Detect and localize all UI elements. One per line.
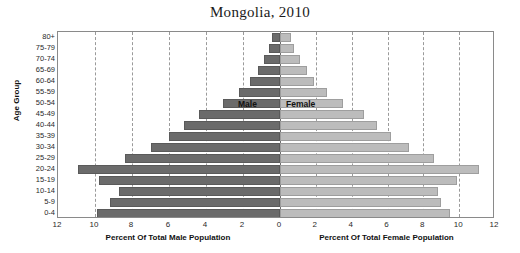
y-axis-tick-labels: 80+75-7970-7465-6960-6455-5950-5445-4940…	[0, 31, 55, 218]
pyramid-row	[58, 176, 493, 185]
y-tick-35-39: 35-39	[3, 131, 55, 140]
pyramid-row	[58, 88, 493, 97]
bar-male	[78, 165, 280, 174]
bar-female	[280, 44, 294, 53]
bar-male	[97, 209, 280, 217]
x-tick-6: 0	[264, 220, 294, 229]
x-axis-title-female: Percent Of Total Female Population	[279, 233, 494, 242]
x-tick-8: 4	[336, 220, 366, 229]
bar-female	[280, 187, 438, 196]
y-tick-30-34: 30-34	[3, 142, 55, 151]
series-label-male: Male	[238, 99, 257, 109]
y-tick-40-44: 40-44	[3, 120, 55, 129]
bar-male	[269, 44, 280, 53]
bar-male	[151, 143, 281, 152]
pyramid-row	[58, 198, 493, 207]
pyramid-row	[58, 132, 493, 141]
y-tick-0-4: 0-4	[3, 208, 55, 217]
x-tick-1: 10	[79, 220, 109, 229]
bar-female	[280, 121, 377, 130]
bar-female	[280, 66, 307, 75]
chart-title: Mongolia, 2010	[0, 4, 520, 21]
pyramid-row	[58, 209, 493, 217]
y-tick-5-9: 5-9	[3, 197, 55, 206]
y-tick-50-54: 50-54	[3, 98, 55, 107]
y-tick-70-74: 70-74	[3, 54, 55, 63]
bar-female	[280, 132, 391, 141]
y-tick-45-49: 45-49	[3, 109, 55, 118]
bar-male	[272, 33, 280, 42]
pyramid-row	[58, 66, 493, 75]
y-tick-25-29: 25-29	[3, 153, 55, 162]
x-tick-2: 8	[116, 220, 146, 229]
pyramid-row	[58, 44, 493, 53]
y-tick-20-24: 20-24	[3, 164, 55, 173]
bar-female	[280, 209, 450, 217]
y-tick-75-79: 75-79	[3, 43, 55, 52]
bar-male	[239, 88, 280, 97]
pyramid-row	[58, 154, 493, 163]
bar-female	[280, 176, 457, 185]
y-tick-55-59: 55-59	[3, 87, 55, 96]
y-tick-15-19: 15-19	[3, 175, 55, 184]
pyramid-row	[58, 55, 493, 64]
bar-male	[110, 198, 280, 207]
pyramid-row	[58, 165, 493, 174]
x-tick-4: 4	[190, 220, 220, 229]
y-tick-80+: 80+	[3, 32, 55, 41]
bar-female	[280, 33, 291, 42]
x-tick-5: 2	[227, 220, 257, 229]
y-tick-65-69: 65-69	[3, 65, 55, 74]
x-tick-3: 6	[153, 220, 183, 229]
bar-male	[258, 66, 280, 75]
bar-female	[280, 88, 327, 97]
x-tick-10: 8	[407, 220, 437, 229]
bar-male	[125, 154, 280, 163]
bar-female	[280, 55, 300, 64]
series-label-female: Female	[286, 99, 315, 109]
x-axis-title-male: Percent Of Total Male Population	[57, 233, 279, 242]
x-tick-9: 6	[372, 220, 402, 229]
pyramid-row	[58, 110, 493, 119]
bar-male	[184, 121, 280, 130]
bar-female	[280, 110, 364, 119]
pyramid-row	[58, 187, 493, 196]
x-tick-0: 12	[42, 220, 72, 229]
bar-male	[99, 176, 280, 185]
bar-female	[280, 143, 409, 152]
bar-male	[119, 187, 280, 196]
pyramid-row	[58, 121, 493, 130]
plot-area: MaleFemale	[57, 31, 494, 218]
x-tick-12: 12	[479, 220, 509, 229]
pyramid-row	[58, 77, 493, 86]
bar-male	[199, 110, 280, 119]
pyramid-row	[58, 99, 493, 108]
pyramid-row	[58, 143, 493, 152]
x-tick-11: 10	[443, 220, 473, 229]
bar-female	[280, 154, 434, 163]
bar-female	[280, 165, 479, 174]
x-tick-7: 2	[300, 220, 330, 229]
bar-male	[264, 55, 280, 64]
pyramid-row	[58, 33, 493, 42]
bar-female	[280, 198, 441, 207]
y-tick-10-14: 10-14	[3, 186, 55, 195]
population-pyramid-chart: Mongolia, 2010 Age Group 80+75-7970-7465…	[0, 0, 520, 253]
bar-male	[250, 77, 280, 86]
bar-female	[280, 77, 314, 86]
y-tick-60-64: 60-64	[3, 76, 55, 85]
bar-male	[169, 132, 280, 141]
